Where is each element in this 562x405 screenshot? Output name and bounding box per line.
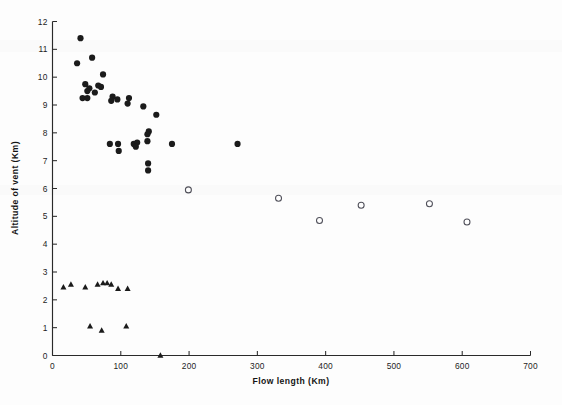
data-point-filled-triangle	[60, 284, 66, 289]
data-point-open-circle	[316, 218, 322, 224]
series-filled-circles	[74, 35, 241, 173]
x-tick-label: 200	[182, 361, 197, 371]
x-tick-label: 100	[113, 361, 128, 371]
x-axis-ticks: 0100200300400500600700	[50, 351, 538, 371]
data-point-filled-triangle	[95, 281, 101, 286]
data-point-filled-triangle	[123, 323, 129, 328]
y-tick-label: 2	[43, 295, 48, 305]
data-point-filled-circle	[144, 138, 150, 144]
y-tick-label: 12	[38, 17, 48, 27]
series-open-circles	[185, 187, 470, 225]
data-point-open-circle	[426, 201, 432, 207]
data-point-filled-triangle	[68, 281, 74, 286]
figure-page: 0123456789101112 0100200300400500600700 …	[0, 0, 562, 405]
data-point-filled-circle	[89, 55, 95, 61]
data-point-filled-circle	[115, 141, 121, 147]
data-point-filled-circle	[74, 60, 80, 66]
data-point-filled-circle	[92, 89, 98, 95]
x-tick-label: 700	[523, 361, 538, 371]
data-point-filled-circle	[145, 160, 151, 166]
y-tick-label: 10	[38, 72, 48, 82]
y-tick-label: 9	[43, 100, 48, 110]
data-point-open-circle	[464, 219, 470, 225]
data-point-filled-circle	[100, 71, 106, 77]
y-tick-label: 11	[38, 44, 47, 54]
x-tick-label: 300	[250, 361, 265, 371]
data-point-filled-circle	[116, 148, 122, 154]
y-tick-label: 0	[43, 351, 48, 361]
y-tick-label: 7	[43, 156, 48, 166]
data-point-filled-triangle	[99, 327, 105, 332]
data-point-filled-circle	[125, 101, 131, 107]
data-point-filled-circle	[140, 103, 146, 109]
data-point-filled-circle	[169, 141, 175, 147]
data-point-filled-circle	[108, 98, 114, 104]
x-tick-label: 600	[455, 361, 470, 371]
data-point-open-circle	[185, 187, 191, 193]
x-tick-label: 0	[50, 361, 55, 371]
data-point-filled-circle	[98, 84, 104, 90]
series-filled-triangles	[60, 280, 163, 358]
data-point-filled-circle	[234, 141, 240, 147]
data-point-filled-circle	[84, 95, 90, 101]
y-tick-label: 3	[43, 267, 48, 277]
data-point-filled-triangle	[115, 285, 121, 290]
y-tick-label: 4	[43, 239, 48, 249]
data-point-filled-circle	[77, 35, 83, 41]
y-axis-ticks: 0123456789101112	[38, 17, 57, 361]
data-point-filled-circle	[145, 167, 151, 173]
data-point-filled-circle	[133, 144, 139, 150]
y-tick-label: 8	[43, 128, 48, 138]
scatter-plot: 0123456789101112 0100200300400500600700 …	[0, 0, 562, 405]
data-point-filled-circle	[153, 112, 159, 118]
x-axis-title: Flow length (Km)	[253, 376, 330, 386]
data-point-filled-triangle	[104, 280, 110, 285]
x-tick-label: 400	[318, 361, 333, 371]
data-point-filled-circle	[84, 88, 90, 94]
data-point-filled-circle	[144, 131, 150, 137]
data-point-open-circle	[276, 195, 282, 201]
data-point-filled-circle	[114, 96, 120, 102]
y-tick-label: 1	[43, 323, 48, 333]
data-point-filled-triangle	[82, 284, 88, 289]
data-point-filled-triangle	[125, 285, 131, 290]
y-tick-label: 5	[43, 211, 48, 221]
y-axis-title: Altitude of vent (Km)	[10, 141, 20, 235]
y-tick-label: 6	[43, 184, 48, 194]
x-tick-label: 500	[387, 361, 402, 371]
data-point-filled-circle	[107, 141, 113, 147]
data-point-filled-circle	[126, 95, 132, 101]
data-point-open-circle	[358, 202, 364, 208]
data-point-filled-triangle	[87, 323, 93, 328]
